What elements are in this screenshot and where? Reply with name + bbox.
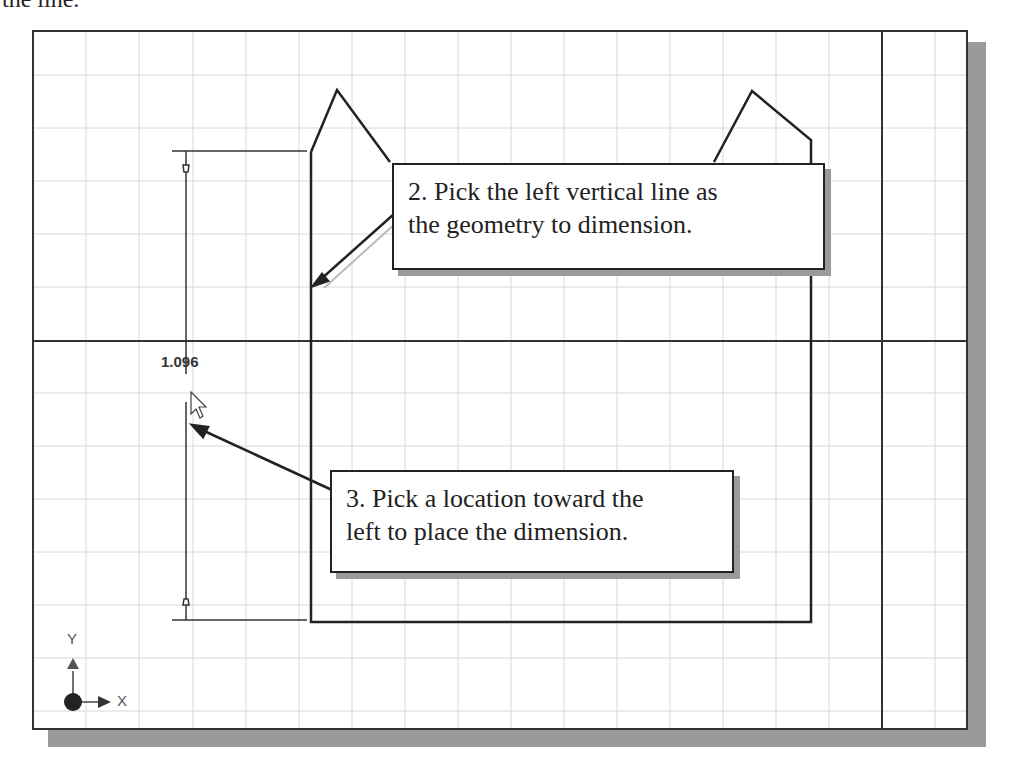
dimension-value[interactable]: 1.096 [161, 353, 199, 370]
callout-step-2-line-2: the geometry to dimension. [408, 208, 811, 241]
callout-step-3: 3. Pick a location toward the left to pl… [330, 470, 734, 573]
sketch-profile [311, 90, 390, 162]
grid [34, 32, 968, 730]
leader-arrow-step-2 [313, 214, 397, 288]
caption-fragment: the line. [2, 0, 79, 13]
vertical-dimension [172, 151, 307, 620]
callout-step-3-line-2: left to place the dimension. [346, 515, 720, 548]
triad-x-label: X [117, 692, 127, 709]
origin-axes [34, 32, 968, 730]
callout-step-2: 2. Pick the left vertical line as the ge… [392, 163, 825, 270]
sketch-canvas[interactable]: 1.096 Y X 2. Pick the left vertical line… [32, 30, 968, 730]
sketch-graphics[interactable] [34, 32, 968, 730]
coordinate-triad-icon [64, 658, 111, 711]
callout-step-3-line-1: 3. Pick a location toward the [346, 482, 720, 515]
callout-step-2-line-1: 2. Pick the left vertical line as [408, 175, 811, 208]
triad-y-label: Y [67, 630, 77, 647]
